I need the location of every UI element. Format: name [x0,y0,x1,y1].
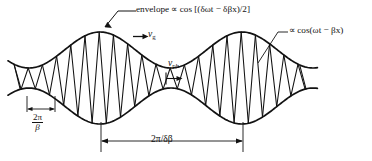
carrier-edge-segment [14,64,20,88]
carrier-segment [206,45,213,105]
phase-velocity-caption: vph [168,58,179,69]
carrier-segment [149,64,156,96]
carrier-segment [270,44,277,107]
group-velocity-caption: vg [148,29,156,40]
carrier-segment [184,65,191,95]
wave-packet-figure: envelope ∝ cos [(δωt − δβx)/2] ∝ cos(ωt … [0,0,372,161]
carrier-segment [64,45,71,105]
carrier-segment [234,32,241,123]
carrier-segment [28,68,35,89]
carrier-segment [241,32,248,123]
carrier-segment [57,56,64,105]
lower-envelope-curve [8,88,317,124]
carrier-segment [199,56,206,105]
group-velocity-subscript: g [152,33,155,40]
carrier-period-denominator: β [32,123,43,132]
carrier-segment [291,64,298,96]
beat-period-caption: 2π/δβ [151,134,173,144]
carrier-segment [35,65,42,89]
envelope-caption: envelope ∝ cos [(δωt − δβx)/2] [136,5,250,14]
carrier-segment [277,55,284,107]
carrier-segment [220,36,227,116]
carrier-segment [92,32,99,123]
carrier-segment [192,56,199,95]
upper-envelope-curve [8,32,317,68]
carrier-segment [85,36,92,123]
carrier-segment [284,55,291,96]
carrier-edge-segment [300,66,306,89]
phase-velocity-subscript: ph [172,62,179,69]
carrier-segment [42,65,49,95]
carrier-segment [121,44,128,117]
carrier-segment [135,55,142,107]
carrier-segment [106,35,113,123]
carrier-caption: ∝ cos(ωt − βx) [289,26,343,35]
carrier-segment [248,35,255,123]
carrier-waveform [14,32,306,123]
carrier-segment [71,45,78,116]
carrier-segment [128,44,135,107]
envelope-leader [105,11,136,28]
carrier-period-dimension [27,96,55,112]
carrier-segment [99,32,106,123]
carrier-segment [78,36,85,116]
carrier-segment [50,56,57,95]
carrier-segment [213,45,220,116]
group-velocity-arrow [133,34,149,39]
carrier-period-caption: 2πβ [32,113,43,132]
carrier-segment [156,64,163,89]
carrier-segment [298,64,305,89]
carrier-segment [113,35,120,117]
carrier-segment [255,35,262,117]
carrier-segment [142,55,149,96]
carrier-segment [21,68,28,89]
carrier-segment [227,36,234,123]
